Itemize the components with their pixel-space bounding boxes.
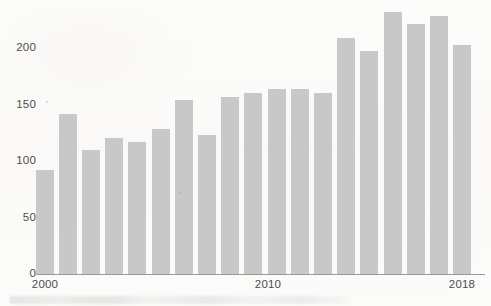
bar-2016 (407, 24, 425, 274)
x-tick-label-2000: 2000 (21, 278, 69, 290)
y-tick-label-200: 200 (2, 41, 36, 53)
bar-2003 (105, 138, 123, 274)
bar-2015 (384, 12, 402, 274)
bar-2007 (198, 135, 216, 274)
x-tick-label-2018: 2018 (438, 278, 486, 290)
bar-2011 (291, 89, 309, 274)
bar-2006 (175, 100, 193, 274)
bar-chart: 200 150 100 50 0 2000 2010 2018 (0, 0, 491, 306)
bar-2004 (128, 142, 146, 274)
bar-2018 (453, 45, 471, 274)
bar-2009 (244, 93, 262, 274)
bar-2005 (152, 129, 170, 274)
y-tick-label-150: 150 (2, 98, 36, 110)
y-tick-label-100: 100 (2, 154, 36, 166)
bar-2017 (430, 16, 448, 274)
y-tick-label-50: 50 (2, 211, 36, 223)
bar-2013 (337, 38, 355, 274)
bar-2012 (314, 93, 332, 274)
bar-2014 (360, 51, 378, 274)
bar-2002 (82, 150, 100, 274)
bar-2008 (221, 97, 239, 274)
bar-2001 (59, 114, 77, 274)
plot-area: 200 150 100 50 0 2000 2010 2018 (0, 0, 491, 306)
bar-2000 (36, 170, 54, 274)
bar-2010 (268, 89, 286, 274)
x-tick-label-2010: 2010 (244, 278, 292, 290)
x-axis-line (36, 274, 485, 275)
